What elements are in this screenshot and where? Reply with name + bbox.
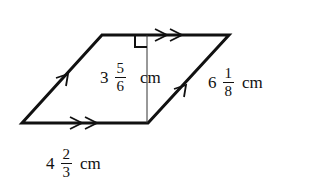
slant-whole: 6 — [208, 73, 217, 93]
right-angle-marker — [135, 35, 147, 47]
base-numerator: 2 — [61, 147, 73, 164]
base-whole: 4 — [46, 154, 55, 174]
height-unit: cm — [140, 68, 161, 88]
height-numerator: 5 — [115, 61, 127, 78]
slant-denominator: 8 — [225, 83, 233, 99]
height-denominator: 6 — [117, 78, 125, 94]
base-label: 4 2 3 cm — [46, 147, 101, 180]
base-fraction: 2 3 — [61, 147, 73, 180]
height-whole: 3 — [100, 68, 109, 88]
slant-numerator: 1 — [223, 66, 235, 83]
height-fraction: 5 6 — [115, 61, 127, 94]
slant-unit: cm — [242, 73, 263, 93]
height-label: 3 5 6 cm — [100, 61, 161, 94]
base-unit: cm — [80, 154, 101, 174]
base-denominator: 3 — [63, 164, 71, 180]
slant-fraction: 1 8 — [223, 66, 235, 99]
slant-side-label: 6 1 8 cm — [208, 66, 263, 99]
